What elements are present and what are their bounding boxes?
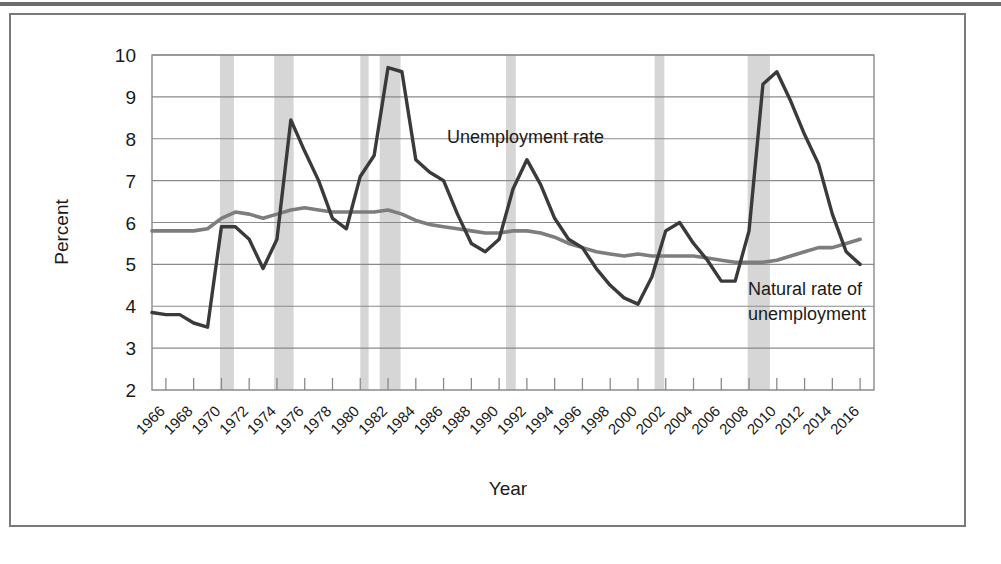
xtick-label-1994: 1994 [521, 402, 557, 438]
unemployment-rate-annotation: Unemployment rate [447, 127, 604, 147]
natural-rate-annotation-line1: Natural rate of [748, 279, 863, 299]
x-tick-labels: 1966196819701972197419761978198019821984… [132, 402, 862, 438]
ytick-label-8: 8 [125, 129, 136, 150]
ytick-label-6: 6 [125, 213, 136, 234]
xtick-label-1988: 1988 [438, 402, 474, 438]
xtick-label-1974: 1974 [243, 402, 279, 438]
x-axis-title: Year [489, 478, 528, 499]
xtick-label-1984: 1984 [382, 402, 418, 438]
xtick-label-2006: 2006 [688, 402, 724, 438]
ytick-label-3: 3 [125, 338, 136, 359]
natural-rate-annotation-line2: unemployment [748, 304, 866, 324]
xtick-label-1998: 1998 [577, 402, 613, 438]
xtick-label-2008: 2008 [716, 402, 752, 438]
xtick-label-2014: 2014 [799, 402, 835, 438]
ytick-label-10: 10 [115, 45, 136, 66]
xtick-label-1978: 1978 [299, 402, 335, 438]
xtick-label-2004: 2004 [660, 402, 696, 438]
ytick-label-7: 7 [125, 171, 136, 192]
xtick-label-1982: 1982 [355, 402, 391, 438]
xtick-label-1970: 1970 [188, 402, 224, 438]
xtick-label-1966: 1966 [132, 402, 168, 438]
xtick-label-1968: 1968 [160, 402, 196, 438]
xtick-label-2010: 2010 [743, 402, 779, 438]
y-tick-labels: 2345678910 [115, 45, 137, 401]
y-axis-title: Percent [51, 199, 72, 265]
xtick-label-1972: 1972 [216, 402, 252, 438]
xtick-label-1980: 1980 [327, 402, 363, 438]
ytick-label-9: 9 [125, 87, 136, 108]
unemployment-chart: 2345678910 19661968197019721974197619781… [0, 0, 1001, 564]
xtick-label-1990: 1990 [466, 402, 502, 438]
xtick-label-2000: 2000 [604, 402, 640, 438]
ytick-label-2: 2 [125, 380, 136, 401]
xtick-label-1976: 1976 [271, 402, 307, 438]
xtick-label-1996: 1996 [549, 402, 585, 438]
ytick-label-4: 4 [125, 296, 136, 317]
xtick-label-1992: 1992 [493, 402, 529, 438]
figure-root: 2345678910 19661968197019721974197619781… [0, 0, 1001, 564]
xtick-label-2016: 2016 [827, 402, 863, 438]
xtick-label-2012: 2012 [771, 402, 807, 438]
ytick-label-5: 5 [125, 254, 136, 275]
xtick-label-2002: 2002 [632, 402, 668, 438]
xtick-label-1986: 1986 [410, 402, 446, 438]
